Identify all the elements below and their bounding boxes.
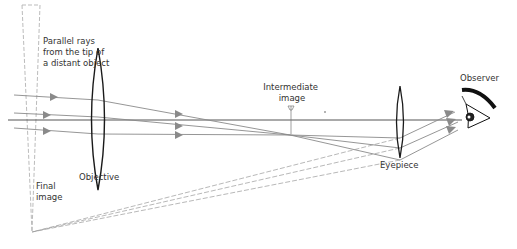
diverging-rays xyxy=(290,135,400,160)
telescope-diagram: Parallel rays from the tip of a distant … xyxy=(0,0,517,249)
ray-arrows-right xyxy=(444,110,456,134)
objective-label: Objective xyxy=(79,172,119,182)
objective-lens xyxy=(92,48,105,190)
virtual-rays xyxy=(32,138,400,232)
ray-arrows-left xyxy=(43,93,58,135)
eyepiece-label: Eyepiece xyxy=(380,160,419,170)
converging-rays xyxy=(98,100,290,135)
intermediate-image-label: Intermediate image xyxy=(263,82,321,103)
observer-label: Observer xyxy=(460,73,499,83)
eye-icon xyxy=(462,90,495,128)
dot-mark xyxy=(324,111,326,113)
final-image-label: Final image xyxy=(36,181,62,202)
parallel-rays-label: Parallel rays from the tip of a distant … xyxy=(43,36,110,68)
